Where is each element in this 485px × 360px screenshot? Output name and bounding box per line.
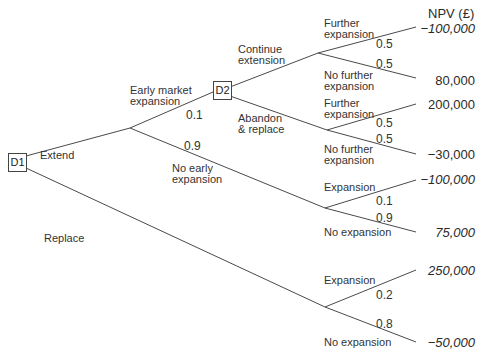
label-ar-further-expansion: Further expansion bbox=[324, 98, 374, 120]
npv-outcome: 250,000 bbox=[395, 264, 475, 277]
label-ne-no-expansion: No expansion bbox=[324, 227, 391, 238]
prob-no-early: 0.9 bbox=[184, 140, 201, 152]
npv-outcome: −50,000 bbox=[395, 336, 475, 349]
label-ce-further-expansion: Further expansion bbox=[324, 18, 374, 40]
label-early-market-expansion: Early market expansion bbox=[130, 85, 192, 107]
prob-ce-further: 0.5 bbox=[376, 38, 393, 50]
npv-outcome: −100,000 bbox=[395, 173, 475, 186]
prob-ar-no-further: 0.5 bbox=[376, 133, 393, 145]
decision-node-d1: D1 bbox=[8, 153, 27, 172]
label-replace: Replace bbox=[44, 233, 84, 244]
npv-outcome: −30,000 bbox=[395, 148, 475, 161]
prob-ce-no-further: 0.5 bbox=[376, 58, 393, 70]
npv-header: NPV (£) bbox=[428, 7, 474, 20]
branch-no-early bbox=[130, 128, 325, 208]
prob-rp-expansion: 0.2 bbox=[376, 289, 393, 301]
label-ne-expansion: Expansion bbox=[324, 182, 375, 193]
label-ar-no-further-expansion: No further expansion bbox=[324, 144, 374, 166]
npv-outcome: 200,000 bbox=[395, 98, 475, 111]
label-ce-no-further-expansion: No further expansion bbox=[324, 70, 374, 92]
prob-ne-no-expansion: 0.9 bbox=[376, 212, 393, 224]
prob-ne-expansion: 0.1 bbox=[376, 195, 393, 207]
label-continue-extension: Continue extension bbox=[238, 44, 285, 66]
label-extend: Extend bbox=[40, 150, 74, 161]
label-rp-expansion: Expansion bbox=[324, 275, 375, 286]
prob-early-market: 0.1 bbox=[186, 109, 203, 121]
label-abandon-replace: Abandon & replace bbox=[238, 113, 284, 135]
npv-outcome: 80,000 bbox=[395, 74, 475, 87]
label-rp-no-expansion: No expansion bbox=[324, 337, 391, 348]
prob-rp-no-expansion: 0.8 bbox=[376, 318, 393, 330]
decision-node-d2: D2 bbox=[213, 81, 232, 100]
npv-outcome: −100,000 bbox=[395, 22, 475, 35]
label-no-early-expansion: No early expansion bbox=[172, 163, 222, 185]
npv-outcome: 75,000 bbox=[395, 226, 475, 239]
prob-ar-further: 0.5 bbox=[376, 117, 393, 129]
